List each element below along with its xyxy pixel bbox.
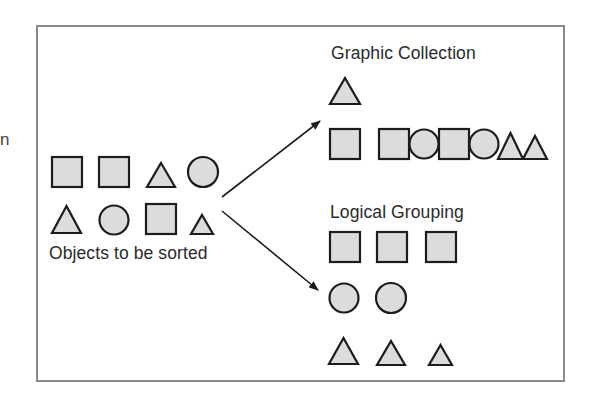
circle-shape (100, 206, 129, 235)
triangle-shape (498, 133, 523, 159)
graphic-collection-group (330, 78, 547, 159)
square-shape (146, 204, 176, 234)
arrow-to-logical-grouping (222, 211, 318, 290)
square-shape (439, 129, 469, 159)
square-shape (330, 232, 360, 262)
arrow-to-graphic-collection (222, 121, 320, 197)
triangle-shape (329, 338, 358, 364)
circle-shape (330, 284, 359, 313)
square-shape (52, 157, 82, 187)
arrows (222, 121, 320, 290)
logical-group-circles (330, 283, 407, 313)
square-shape (377, 232, 407, 262)
triangle-shape (429, 345, 452, 365)
triangle-shape (191, 215, 213, 234)
logical-group-triangles (329, 338, 452, 365)
square-shape (379, 129, 409, 159)
logical-group-squares (330, 232, 456, 262)
square-shape (330, 129, 360, 159)
triangle-shape (147, 163, 175, 187)
square-shape (99, 157, 129, 187)
circle-shape (470, 130, 499, 159)
triangle-shape (523, 136, 547, 159)
triangle-shape (52, 206, 81, 233)
triangle-shape (330, 78, 360, 104)
circle-shape (376, 283, 406, 313)
diagram-canvas (0, 0, 594, 410)
circle-shape (188, 157, 218, 187)
source-objects-group (52, 157, 218, 235)
logical-grouping-group (329, 232, 456, 365)
circle-shape (410, 130, 439, 159)
square-shape (426, 232, 456, 262)
triangle-shape (377, 341, 405, 365)
